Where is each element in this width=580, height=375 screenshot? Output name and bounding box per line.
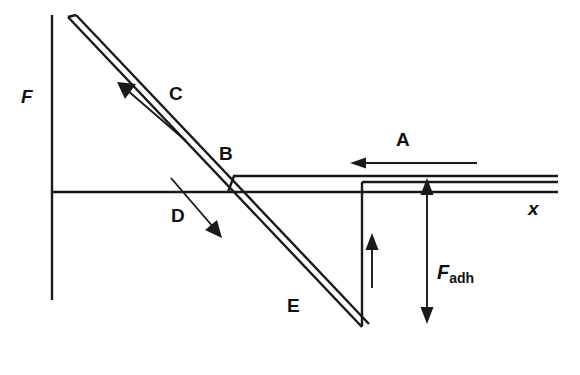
arrow-A — [350, 158, 477, 169]
arrow-Fadh-measure — [421, 178, 434, 324]
contact-line-lower — [76, 15, 369, 324]
adhesion-force-subscript: adh — [449, 270, 474, 286]
annotation-label-b: B — [219, 144, 233, 163]
force-distance-plot — [0, 0, 580, 375]
adhesion-force-symbol: F — [437, 261, 449, 283]
approach-baseline-curve — [228, 176, 558, 192]
annotation-label-a: A — [396, 130, 410, 149]
x-axis-label: x — [528, 199, 539, 218]
annotation-label-c: C — [169, 84, 183, 103]
y-axis-label: F — [21, 87, 33, 106]
annotation-label-d: D — [171, 206, 185, 225]
figure-canvas: F x A B C D E Fadh — [0, 0, 580, 375]
arrow-jump-up — [366, 233, 379, 288]
contact-line-top-cap — [68, 15, 76, 17]
annotation-label-e: E — [287, 296, 300, 315]
adhesion-force-label: Fadh — [437, 262, 474, 282]
contact-line-upper — [68, 17, 362, 327]
